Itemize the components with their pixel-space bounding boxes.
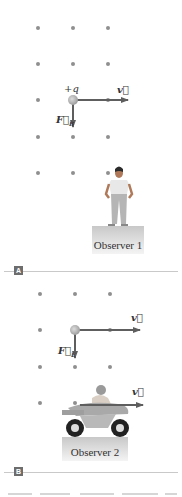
panel-b-tag: B: [14, 467, 23, 476]
panel-b-rider-velocity-label: v⃗: [132, 386, 144, 397]
panel-b-velocity-label: v⃗: [131, 312, 143, 323]
panel-a-charge: [68, 95, 78, 105]
panel-b-rule: [4, 472, 178, 473]
force-symbol: F⃗: [58, 345, 71, 356]
cropped-caption-fragments: [8, 493, 177, 495]
force-subscript: E: [71, 351, 76, 358]
force-symbol: F⃗: [56, 114, 69, 125]
panel-a-force-label: F⃗B: [56, 114, 74, 127]
observer-1-label: Observer 1: [87, 239, 149, 251]
panel-b-charge: [70, 325, 80, 335]
panel-a-velocity-label: v⃗: [117, 84, 129, 95]
panel-a-charge-label: +q: [64, 83, 79, 94]
panel-a-tag: A: [14, 266, 23, 275]
motorcycle-rider-icon: [62, 385, 143, 437]
standing-person-icon: [106, 167, 132, 227]
panel-b-force-label: F⃗E: [58, 345, 76, 358]
observer-2-label: Observer 2: [64, 446, 126, 458]
force-subscript: B: [69, 120, 74, 127]
panel-a-rule: [4, 271, 178, 272]
